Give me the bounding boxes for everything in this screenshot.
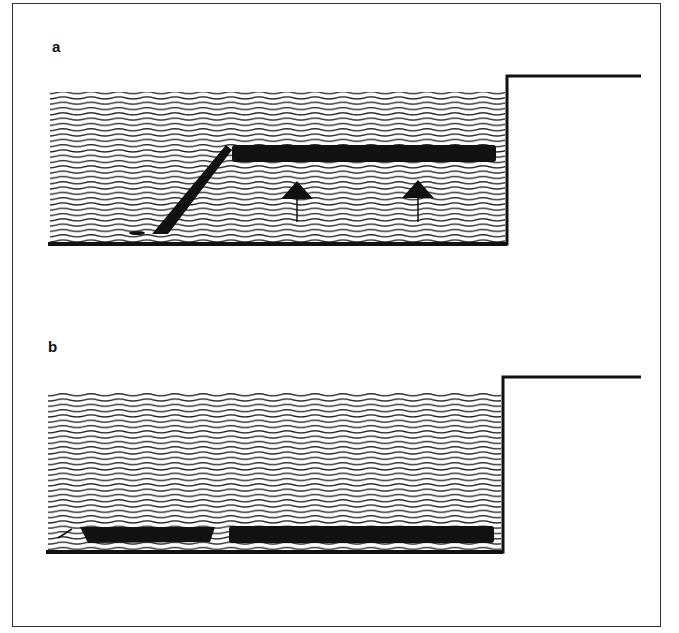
- debris-mark: [129, 231, 145, 235]
- panel-b: [46, 377, 641, 554]
- settled-layer-right: [229, 526, 494, 543]
- panel-a: [48, 76, 641, 246]
- raised-layer: [232, 145, 496, 162]
- bottom-line-b: [46, 550, 503, 554]
- settled-layer-left: [80, 527, 215, 543]
- bottom-line-a: [48, 242, 507, 246]
- water-column-a: [50, 92, 505, 244]
- diagram-canvas: [0, 0, 679, 633]
